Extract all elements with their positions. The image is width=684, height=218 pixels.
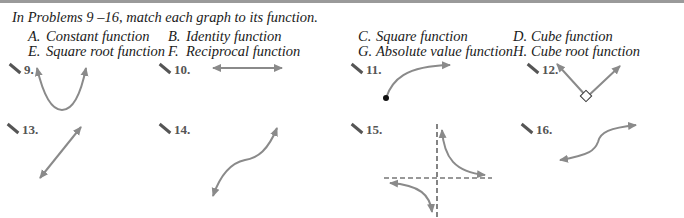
graph-14-cubic-curve — [213, 128, 277, 196]
graph-13-diagonal-line — [40, 127, 81, 178]
graph-15-reciprocal-upper — [442, 130, 485, 175]
graph-16-cube-root-curve — [560, 125, 636, 160]
graph-9-parabola — [37, 68, 86, 110]
graph-11-endpoint-dot — [383, 95, 389, 101]
graph-12-v-shape — [557, 64, 620, 97]
graph-11-sqrt-curve — [386, 65, 450, 98]
graphs-layer — [0, 0, 684, 218]
graph-15-reciprocal-lower — [390, 183, 432, 212]
